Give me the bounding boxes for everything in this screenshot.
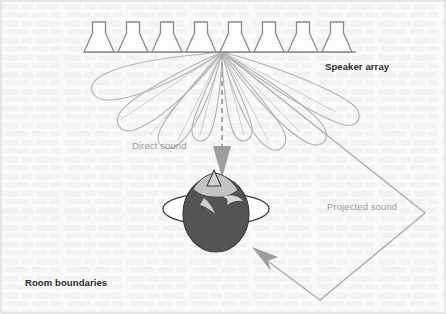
diagram-canvas <box>0 0 446 314</box>
label-room-boundaries: Room boundaries <box>25 278 107 288</box>
label-speaker-array: Speaker array <box>325 62 389 72</box>
speaker-array-diagram: Speaker array Direct sound Projected sou… <box>0 0 446 314</box>
label-direct-sound: Direct sound <box>132 141 187 151</box>
label-projected-sound: Projected sound <box>327 202 397 212</box>
